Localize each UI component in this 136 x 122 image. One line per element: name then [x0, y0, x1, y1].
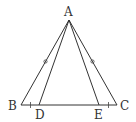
segment-ac — [69, 20, 117, 105]
label-b: B — [8, 99, 17, 113]
triangle-diagram: A B C D E — [0, 0, 136, 122]
segment-ad — [39, 20, 69, 105]
label-c: C — [120, 99, 129, 113]
label-d: D — [35, 108, 45, 122]
segment-ab — [21, 20, 69, 105]
label-a: A — [63, 5, 73, 19]
segment-ae — [69, 20, 99, 105]
label-e: E — [94, 108, 103, 122]
